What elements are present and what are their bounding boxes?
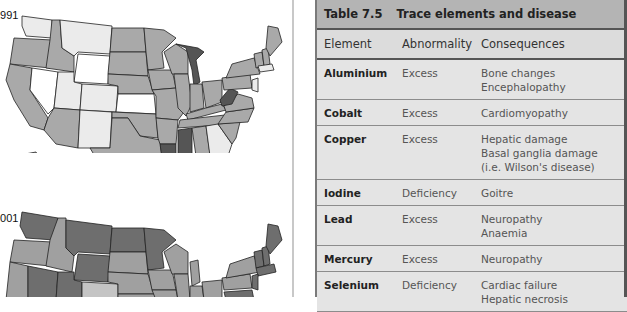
cell-element: Aluminium xyxy=(317,66,402,94)
table-number: Table 7.5 xyxy=(324,7,382,21)
state-shape xyxy=(108,252,148,274)
state-shape xyxy=(156,118,178,144)
cell-abnormality: Excess xyxy=(402,252,481,266)
state-shape xyxy=(28,266,58,297)
state-shape xyxy=(10,240,52,266)
cell-element: Mercury xyxy=(317,252,402,266)
state-shape xyxy=(224,290,254,297)
cell-abnormality: Excess xyxy=(402,212,481,240)
cell-consequences: Neuropathy xyxy=(481,252,627,266)
state-shape xyxy=(118,294,156,297)
table-row: LeadExcessNeuropathyAnaemia xyxy=(317,206,627,246)
cell-abnormality: Deficiency xyxy=(402,186,481,200)
trace-elements-table: Table 7.5 Trace elements and disease Ele… xyxy=(315,0,627,297)
column-header-abnormality: Abnormality xyxy=(402,37,481,51)
cell-abnormality: Excess xyxy=(402,66,481,94)
consequence-line: Anaemia xyxy=(481,226,627,240)
cell-element: Cobalt xyxy=(317,106,402,120)
cell-consequences: Goitre xyxy=(481,186,627,200)
state-shape xyxy=(60,20,112,56)
state-shape xyxy=(266,224,282,254)
consequence-line: Cardiomyopathy xyxy=(481,106,627,120)
table-row: CopperExcessHepatic damageBasal ganglia … xyxy=(317,126,627,180)
panel-divider xyxy=(292,0,294,297)
cell-element: Selenium xyxy=(317,278,402,306)
state-shape xyxy=(74,254,110,282)
consequence-line: Hepatic damage xyxy=(481,132,627,146)
state-shape xyxy=(66,220,112,256)
state-shape xyxy=(10,152,56,153)
state-shape xyxy=(110,228,146,252)
table-row: AluminiumExcessBone changesEncephalopath… xyxy=(317,60,627,100)
state-shape xyxy=(266,26,282,56)
consequence-line: Encephalopathy xyxy=(481,80,627,94)
us-map-1991 xyxy=(0,8,292,153)
state-shape xyxy=(190,286,204,297)
cell-element: Copper xyxy=(317,132,402,174)
cell-consequences: Bone changesEncephalopathy xyxy=(481,66,627,94)
state-shape xyxy=(110,28,146,52)
consequence-line: (i.e. Wilson's disease) xyxy=(481,160,627,174)
state-shape xyxy=(252,78,258,92)
cell-element: Iodine xyxy=(317,186,402,200)
table-title: Trace elements and disease xyxy=(396,7,576,21)
state-shape xyxy=(152,290,178,297)
consequence-line: Basal ganglia damage xyxy=(481,146,627,160)
state-shape xyxy=(22,16,52,38)
consequence-line: Cardiac failure xyxy=(481,278,627,292)
consequence-line: Goitre xyxy=(481,186,627,200)
table-row: CobaltExcessCardiomyopathy xyxy=(317,100,627,126)
cell-consequences: Cardiomyopathy xyxy=(481,106,627,120)
state-shape xyxy=(190,84,204,112)
state-shape xyxy=(44,108,80,148)
state-shape xyxy=(164,44,188,74)
us-map-2001 xyxy=(0,210,292,297)
consequence-line: Neuropathy xyxy=(481,212,627,226)
state-shape xyxy=(116,94,156,114)
consequence-line: Neuropathy xyxy=(481,252,627,266)
cell-element: Lead xyxy=(317,212,402,240)
state-shape xyxy=(74,54,110,84)
column-header-element: Element xyxy=(317,37,402,51)
state-shape xyxy=(190,260,200,286)
state-shape xyxy=(108,52,148,76)
cell-abnormality: Deficiency xyxy=(402,278,481,306)
state-shape xyxy=(252,274,258,290)
consequence-line: Bone changes xyxy=(481,66,627,80)
table-caption: Table 7.5 Trace elements and disease xyxy=(317,0,627,30)
state-shape xyxy=(202,80,222,108)
state-shape xyxy=(178,128,192,153)
state-shape xyxy=(6,262,28,297)
cell-consequences: Cardiac failureHepatic necrosis xyxy=(481,278,627,306)
state-shape xyxy=(78,110,112,148)
cell-consequences: Hepatic damageBasal ganglia damage(i.e. … xyxy=(481,132,627,174)
cell-consequences: NeuropathyAnaemia xyxy=(481,212,627,240)
table-header-row: Element Abnormality Consequences xyxy=(317,30,627,60)
table-body: AluminiumExcessBone changesEncephalopath… xyxy=(317,60,627,312)
state-shape xyxy=(202,280,222,297)
table-row: IodineDeficiencyGoitre xyxy=(317,180,627,206)
consequence-line: Hepatic necrosis xyxy=(481,292,627,306)
state-shape xyxy=(82,282,118,297)
state-shape xyxy=(164,244,188,274)
column-header-consequences: Consequences xyxy=(481,37,627,51)
cell-abnormality: Excess xyxy=(402,106,481,120)
state-shape xyxy=(80,84,118,112)
cell-abnormality: Excess xyxy=(402,132,481,174)
table-row: SeleniumDeficiencyCardiac failureHepatic… xyxy=(317,272,627,312)
state-shape xyxy=(10,38,52,68)
maps-panel: 1991 xyxy=(0,0,292,297)
table-row: MercuryExcessNeuropathy xyxy=(317,246,627,272)
